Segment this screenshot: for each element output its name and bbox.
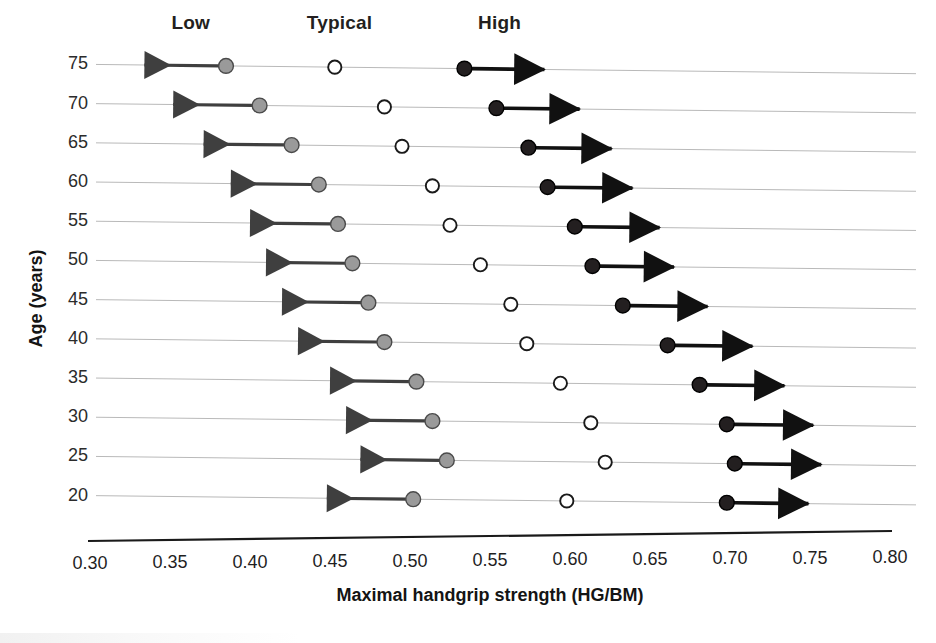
series-layer — [144, 59, 821, 511]
x-axis-line — [88, 531, 892, 541]
marker-typical — [474, 258, 487, 271]
right-arrow-icon — [734, 424, 813, 425]
data-point-low-age-45 — [282, 295, 376, 310]
left-arrow-icon — [330, 381, 409, 382]
marker-typical — [443, 219, 456, 232]
y-tick-label-20: 20 — [68, 484, 88, 505]
y-tick-label-25: 25 — [68, 445, 88, 466]
data-point-high-age-55 — [567, 219, 659, 234]
y-tick-label-45: 45 — [68, 288, 88, 309]
marker-high — [489, 101, 504, 116]
y-axis-title: Age (years) — [26, 239, 47, 359]
marker-typical — [520, 337, 533, 350]
left-arrow-icon — [346, 420, 425, 421]
left-arrow-icon — [204, 144, 285, 145]
x-tick-label-0-80: 0.80 — [872, 547, 907, 568]
marker-high — [615, 298, 630, 313]
left-arrow-icon — [266, 262, 345, 263]
grid-line-row — [96, 182, 916, 191]
marker-low — [252, 98, 267, 113]
y-tick-label-60: 60 — [68, 171, 88, 192]
data-point-high-age-30 — [719, 417, 813, 432]
data-point-low-age-65 — [204, 138, 299, 153]
data-point-typical-age-40 — [520, 337, 533, 350]
data-point-low-age-25 — [360, 453, 454, 468]
marker-high — [585, 259, 600, 274]
marker-low — [409, 374, 424, 389]
data-point-typical-age-65 — [395, 140, 408, 153]
marker-low — [425, 414, 440, 429]
marker-low — [439, 453, 454, 468]
marker-typical — [599, 456, 612, 469]
data-point-typical-age-70 — [378, 100, 391, 113]
y-tick-label-30: 30 — [68, 406, 88, 427]
left-arrow-icon — [144, 65, 219, 66]
left-arrow-icon — [282, 302, 361, 303]
left-arrow-icon — [173, 105, 252, 106]
marker-low — [219, 59, 234, 74]
data-point-high-age-20 — [719, 495, 808, 510]
marker-high — [567, 219, 582, 234]
y-tick-label-65: 65 — [68, 131, 88, 152]
y-tick-label-55: 55 — [68, 210, 88, 231]
data-point-low-age-20 — [327, 492, 421, 507]
data-point-high-age-50 — [585, 259, 674, 274]
marker-typical — [426, 179, 439, 192]
right-arrow-icon — [707, 385, 785, 386]
data-point-typical-age-35 — [554, 377, 567, 390]
marker-low — [284, 138, 299, 153]
x-tick-label-0-65: 0.65 — [632, 549, 667, 570]
data-point-low-age-35 — [330, 374, 424, 389]
grid-lines — [96, 64, 916, 504]
marker-high — [692, 377, 707, 392]
left-arrow-icon — [231, 184, 312, 185]
marker-low — [406, 492, 421, 507]
data-point-typical-age-75 — [328, 61, 341, 74]
right-arrow-icon — [535, 148, 611, 149]
x-tick-label-0-30: 0.30 — [72, 553, 107, 574]
data-point-low-age-75 — [144, 59, 233, 74]
y-tick-label-35: 35 — [68, 367, 88, 388]
grid-line-row — [96, 339, 916, 348]
y-tick-label-70: 70 — [68, 92, 88, 113]
data-point-high-age-45 — [615, 298, 707, 313]
data-point-typical-age-45 — [504, 298, 517, 311]
grid-line-row — [96, 378, 916, 387]
grid-line-row — [96, 221, 916, 230]
x-tick-label-0-60: 0.60 — [552, 549, 587, 570]
right-arrow-icon — [630, 306, 708, 307]
x-tick-label-0-50: 0.50 — [392, 551, 427, 572]
right-arrow-icon — [555, 187, 633, 188]
marker-typical — [584, 416, 597, 429]
marker-high — [521, 140, 536, 155]
y-tick-label-40: 40 — [68, 327, 88, 348]
right-arrow-icon — [742, 464, 821, 465]
plot-canvas — [0, 0, 936, 643]
marker-low — [331, 217, 346, 232]
data-point-typical-age-60 — [426, 179, 439, 192]
marker-high — [660, 338, 675, 353]
data-point-typical-age-25 — [599, 456, 612, 469]
left-arrow-icon — [250, 223, 331, 224]
data-point-typical-age-20 — [560, 494, 573, 507]
data-point-low-age-40 — [298, 335, 392, 350]
chart-root: LowTypicalHigh 757065605550454035302520 … — [0, 0, 936, 643]
data-point-low-age-50 — [266, 256, 360, 271]
data-point-typical-age-55 — [443, 219, 456, 232]
data-point-high-age-25 — [727, 456, 821, 471]
marker-high — [719, 495, 734, 510]
grid-line-row — [96, 260, 916, 269]
marker-high — [727, 456, 742, 471]
right-arrow-icon — [599, 266, 674, 267]
x-tick-label-0-40: 0.40 — [232, 552, 267, 573]
marker-high — [540, 180, 555, 195]
data-point-high-age-75 — [457, 61, 544, 76]
data-point-typical-age-30 — [584, 416, 597, 429]
marker-high — [457, 61, 472, 76]
marker-low — [377, 335, 392, 350]
band-label-low: Low — [172, 12, 211, 34]
left-arrow-icon — [327, 498, 406, 499]
x-tick-label-0-75: 0.75 — [792, 548, 827, 569]
right-arrow-icon — [734, 503, 809, 504]
marker-high — [719, 417, 734, 432]
